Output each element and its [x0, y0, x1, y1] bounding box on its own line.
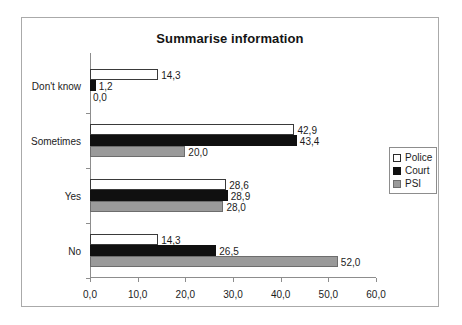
x-axis-tick	[138, 278, 139, 282]
bar-row: 14,3	[90, 69, 376, 80]
bar-value-label: 26,5	[219, 245, 238, 256]
x-axis-tick-label: 60,0	[366, 289, 385, 300]
bar-value-label: 52,0	[341, 256, 360, 267]
bar-police[interactable]	[90, 234, 158, 245]
bar-row: 0,0	[90, 91, 376, 102]
legend-item-psi[interactable]: PSI	[393, 177, 432, 190]
category-label: No	[68, 245, 81, 256]
legend-label: Court	[405, 165, 429, 176]
category-label: Don't know	[32, 80, 81, 91]
chart-legend: PoliceCourtPSI	[389, 147, 437, 194]
x-axis-tick-label: 0,0	[83, 289, 97, 300]
bar-court[interactable]	[90, 245, 216, 256]
bar-row: 42,9	[90, 124, 376, 135]
bar-group: Yes28,628,928,0	[90, 168, 376, 223]
bar-value-label: 14,3	[161, 234, 180, 245]
bar-group: Don't know14,31,20,0	[90, 58, 376, 113]
bar-group: No14,326,552,0	[90, 223, 376, 278]
category-label: Yes	[65, 190, 81, 201]
bar-value-label: 20,0	[188, 146, 207, 157]
bar-value-label: 0,0	[93, 91, 107, 102]
bar-row: 1,2	[90, 80, 376, 91]
chart-frame: Summarise information 0,010,020,030,040,…	[21, 17, 439, 307]
bar-stack: 42,943,420,0	[90, 124, 376, 157]
x-axis-tick-label: 20,0	[176, 289, 195, 300]
court-swatch-icon	[393, 167, 401, 175]
x-axis-tick-label: 30,0	[223, 289, 242, 300]
legend-item-court[interactable]: Court	[393, 164, 432, 177]
legend-item-police[interactable]: Police	[393, 151, 432, 164]
bar-psi[interactable]	[90, 201, 223, 212]
x-axis-tick	[281, 278, 282, 282]
bar-row: 28,0	[90, 201, 376, 212]
bar-value-label: 28,0	[226, 201, 245, 212]
x-axis-tick	[90, 278, 91, 282]
bar-police[interactable]	[90, 124, 294, 135]
bar-court[interactable]	[90, 80, 96, 91]
bar-psi[interactable]	[90, 256, 338, 267]
bar-row: 52,0	[90, 256, 376, 267]
chart-title: Summarise information	[22, 31, 438, 46]
bar-row: 28,9	[90, 190, 376, 201]
x-axis-tick	[185, 278, 186, 282]
bar-row: 43,4	[90, 135, 376, 146]
x-axis-tick-label: 40,0	[271, 289, 290, 300]
x-axis-tick	[233, 278, 234, 282]
bar-stack: 28,628,928,0	[90, 179, 376, 212]
bar-value-label: 14,3	[161, 69, 180, 80]
bar-psi[interactable]	[90, 146, 185, 157]
police-swatch-icon	[393, 154, 401, 162]
bar-court[interactable]	[90, 135, 297, 146]
plot-area: 0,010,020,030,040,050,060,0 Don't know14…	[90, 58, 376, 278]
x-axis-tick-label: 10,0	[128, 289, 147, 300]
y-axis-tick	[86, 278, 90, 279]
bar-group: Sometimes42,943,420,0	[90, 113, 376, 168]
bar-police[interactable]	[90, 179, 226, 190]
bar-police[interactable]	[90, 69, 158, 80]
x-axis-tick	[328, 278, 329, 282]
bar-row: 28,6	[90, 179, 376, 190]
x-axis-tick-label: 50,0	[319, 289, 338, 300]
category-label: Sometimes	[31, 135, 81, 146]
bar-row: 20,0	[90, 146, 376, 157]
bar-court[interactable]	[90, 190, 228, 201]
bar-value-label: 28,9	[231, 190, 250, 201]
bar-value-label: 1,2	[99, 80, 113, 91]
bar-value-label: 28,6	[229, 179, 248, 190]
legend-label: Police	[405, 152, 432, 163]
bar-row: 14,3	[90, 234, 376, 245]
psi-swatch-icon	[393, 180, 401, 188]
legend-label: PSI	[405, 178, 421, 189]
bar-stack: 14,326,552,0	[90, 234, 376, 267]
x-axis-tick	[376, 278, 377, 282]
bar-value-label: 42,9	[297, 124, 316, 135]
bar-value-label: 43,4	[300, 135, 319, 146]
bar-row: 26,5	[90, 245, 376, 256]
bar-stack: 14,31,20,0	[90, 69, 376, 102]
